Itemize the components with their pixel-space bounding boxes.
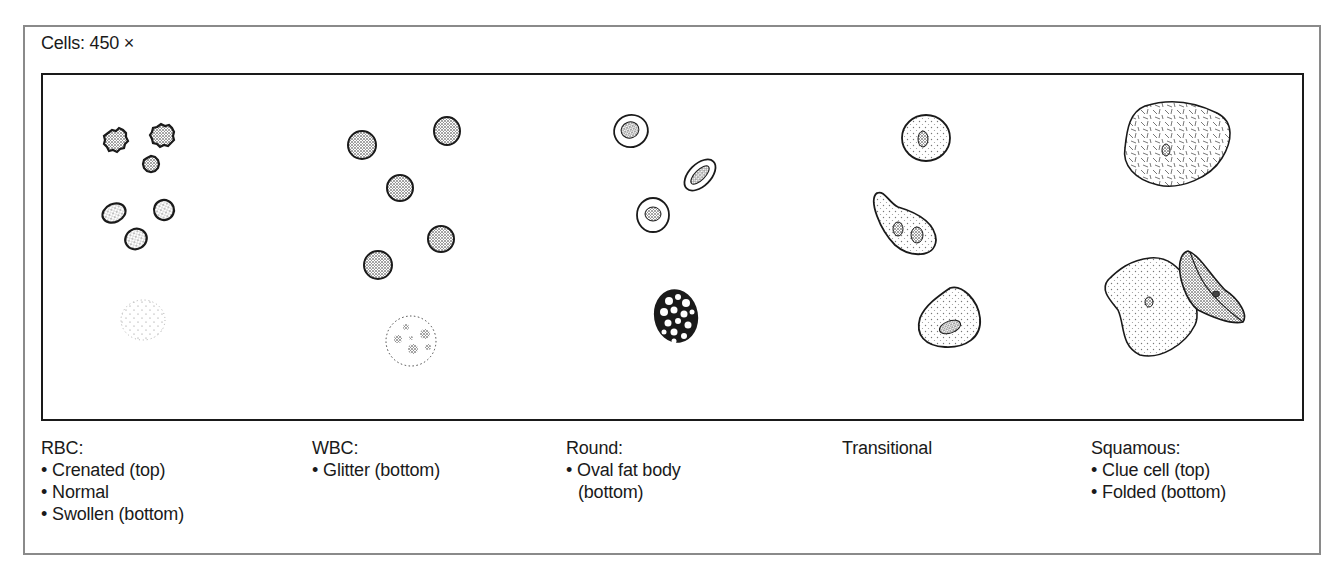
- rbc-crenated-cell: [104, 124, 174, 172]
- legend-item: Glitter (bottom): [312, 459, 440, 481]
- legend-wbc: WBC: Glitter (bottom): [312, 437, 440, 481]
- rbc-normal-cell: [99, 197, 176, 253]
- legend-item: Oval fat body: [566, 459, 681, 481]
- legend-rbc: RBC: Crenated (top) Normal Swollen (bott…: [41, 437, 184, 525]
- squamous-clue-cell: [1125, 102, 1230, 186]
- cell-illustration-panel: [41, 73, 1304, 421]
- legend-heading: WBC:: [312, 437, 440, 459]
- figure-title: Cells: 450 ×: [41, 33, 134, 54]
- round-epithelial-cell: [610, 110, 722, 232]
- legend-item: Folded (bottom): [1091, 481, 1226, 503]
- legend-item-continuation: (bottom): [566, 481, 681, 503]
- legend-item: Normal: [41, 481, 184, 503]
- transitional-cell: [874, 115, 980, 347]
- wbc-cell: [348, 117, 460, 279]
- legend-heading: Squamous:: [1091, 437, 1226, 459]
- legend-transitional: Transitional: [842, 437, 932, 459]
- legend-heading: RBC:: [41, 437, 184, 459]
- squamous-folded-cell: [1105, 251, 1244, 356]
- wbc-glitter-cell: [386, 316, 436, 366]
- legend-heading: Round:: [566, 437, 681, 459]
- oval-fat-body: [650, 286, 703, 347]
- legend-round: Round: Oval fat body (bottom): [566, 437, 681, 503]
- legend-item: Crenated (top): [41, 459, 184, 481]
- rbc-swollen-cell: [121, 300, 165, 340]
- legend-squamous: Squamous: Clue cell (top) Folded (bottom…: [1091, 437, 1226, 503]
- legend-item: Clue cell (top): [1091, 459, 1226, 481]
- legend-item: Swollen (bottom): [41, 503, 184, 525]
- legend-heading: Transitional: [842, 437, 932, 459]
